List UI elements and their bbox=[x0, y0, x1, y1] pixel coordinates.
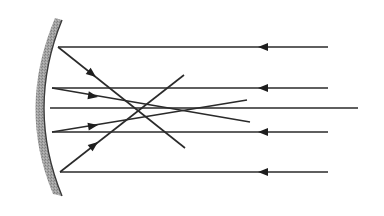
arrow-right-icon bbox=[87, 121, 98, 131]
incident-rays bbox=[50, 43, 358, 176]
reflected-ray bbox=[58, 47, 185, 148]
arrow-left-icon bbox=[258, 168, 268, 176]
concave-mirror-diagram bbox=[0, 0, 384, 216]
arrow-left-icon bbox=[258, 128, 268, 136]
reflected-rays bbox=[52, 47, 250, 172]
arrow-left-icon bbox=[258, 84, 268, 92]
arrow-left-icon bbox=[258, 43, 268, 51]
mirror-backing bbox=[35, 18, 62, 196]
reflected-ray bbox=[60, 75, 184, 172]
concave-mirror bbox=[35, 18, 62, 196]
